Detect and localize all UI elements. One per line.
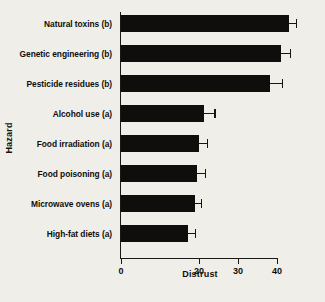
bar <box>121 15 289 32</box>
bar-chart-figure: Hazard Natural toxins (b) Genetic engine… <box>0 0 325 302</box>
x-axis-tick <box>199 259 200 264</box>
error-bar-cap <box>296 19 297 28</box>
y-axis-tick-label: Pesticide residues (b) <box>14 79 112 89</box>
x-axis-title: Distrust <box>120 269 280 279</box>
y-axis-tick-labels: Natural toxins (b) Genetic engineering (… <box>18 12 116 258</box>
plot-area: 0 20 30 40 <box>120 12 310 258</box>
error-bar-cap <box>282 79 283 88</box>
x-axis-tick <box>277 259 278 264</box>
error-bar-cap <box>214 109 215 118</box>
bar <box>121 195 195 212</box>
y-axis-tick-label: Food poisoning (a) <box>14 169 112 179</box>
error-bar-cap <box>205 169 206 178</box>
bar <box>121 105 204 122</box>
bar <box>121 45 281 62</box>
error-bar-cap <box>207 139 208 148</box>
y-axis-tick-label: Microwave ovens (a) <box>14 199 112 209</box>
bar <box>121 225 188 242</box>
x-axis-tick <box>121 259 122 264</box>
y-axis-tick-label: Genetic engineering (b) <box>14 49 112 59</box>
y-axis-title-text: Hazard <box>4 103 14 173</box>
y-axis-tick-label: Alcohol use (a) <box>14 109 112 119</box>
bar <box>121 135 199 152</box>
bar <box>121 75 270 92</box>
error-bar-cap <box>195 229 196 238</box>
y-axis-tick-label: Natural toxins (b) <box>14 19 112 29</box>
y-axis-tick-label: Food irradiation (a) <box>14 139 112 149</box>
error-bar-cap <box>201 199 202 208</box>
y-axis-tick-label: High-fat diets (a) <box>14 229 112 239</box>
error-bar-cap <box>290 49 291 58</box>
x-axis-tick <box>238 259 239 264</box>
bar <box>121 165 197 182</box>
